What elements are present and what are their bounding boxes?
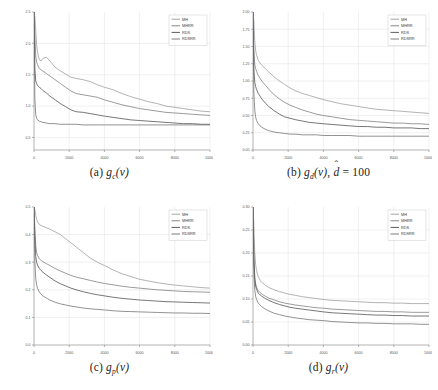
svg-text:10000: 10000 bbox=[424, 156, 432, 160]
caption-c-label: (c) bbox=[90, 361, 103, 373]
caption-c-arg: (v) bbox=[116, 361, 129, 373]
caption-d-label: (d) bbox=[309, 361, 323, 373]
chart-svg-a: 02000400060008000100000.51.01.52.02.5MHM… bbox=[8, 6, 213, 166]
svg-text:RDS: RDS bbox=[401, 31, 409, 35]
caption-a-label: (a) bbox=[90, 166, 103, 178]
svg-text:RDS: RDS bbox=[182, 31, 190, 35]
svg-text:6000: 6000 bbox=[355, 351, 363, 355]
svg-text:4000: 4000 bbox=[100, 351, 108, 355]
caption-d-arg: (v) bbox=[335, 361, 348, 373]
svg-text:MHRR: MHRR bbox=[401, 219, 413, 223]
svg-text:0.20: 0.20 bbox=[243, 251, 250, 255]
svg-text:1.5: 1.5 bbox=[26, 73, 31, 77]
caption-a: (a) gc(v) bbox=[0, 166, 219, 181]
caption-d: (d) gr(v) bbox=[219, 361, 438, 376]
svg-text:0.5: 0.5 bbox=[26, 136, 31, 140]
panel-b: 02000400060008000100000.000.250.500.751.… bbox=[219, 0, 438, 195]
svg-text:MH: MH bbox=[182, 213, 188, 217]
svg-text:1.00: 1.00 bbox=[243, 79, 250, 83]
svg-text:4000: 4000 bbox=[100, 156, 108, 160]
svg-text:0.4: 0.4 bbox=[26, 233, 31, 237]
svg-text:0: 0 bbox=[252, 156, 254, 160]
panel-d: 02000400060008000100000.000.050.100.150.… bbox=[219, 195, 438, 390]
svg-text:2.0: 2.0 bbox=[26, 42, 31, 46]
caption-b-hat-var: ˆd bbox=[333, 166, 339, 178]
svg-text:MH: MH bbox=[401, 213, 407, 217]
svg-text:0.2: 0.2 bbox=[26, 288, 31, 292]
chart-svg-b: 02000400060008000100000.000.250.500.751.… bbox=[227, 6, 432, 166]
plot-area-b: 02000400060008000100000.000.250.500.751.… bbox=[227, 6, 432, 166]
svg-text:0.3: 0.3 bbox=[26, 261, 31, 265]
svg-text:8000: 8000 bbox=[171, 156, 179, 160]
panel-a: 02000400060008000100000.51.01.52.02.5MHM… bbox=[0, 0, 219, 195]
svg-text:2000: 2000 bbox=[284, 156, 292, 160]
chart-svg-d: 02000400060008000100000.000.050.100.150.… bbox=[227, 201, 432, 361]
svg-text:8000: 8000 bbox=[171, 351, 179, 355]
svg-text:0: 0 bbox=[33, 351, 35, 355]
svg-text:1.50: 1.50 bbox=[243, 45, 250, 49]
svg-text:2.00: 2.00 bbox=[243, 10, 250, 14]
svg-text:RDSRR: RDSRR bbox=[401, 232, 415, 236]
svg-text:1.75: 1.75 bbox=[243, 28, 250, 32]
svg-text:8000: 8000 bbox=[390, 351, 398, 355]
svg-text:0: 0 bbox=[33, 156, 35, 160]
svg-text:10000: 10000 bbox=[205, 156, 213, 160]
svg-text:2000: 2000 bbox=[65, 156, 73, 160]
caption-b-arg: (v), bbox=[314, 166, 330, 178]
figure-container: 02000400060008000100000.51.01.52.02.5MHM… bbox=[0, 0, 438, 390]
svg-text:8000: 8000 bbox=[390, 156, 398, 160]
svg-text:RDS: RDS bbox=[182, 226, 190, 230]
svg-text:6000: 6000 bbox=[355, 156, 363, 160]
caption-c: (c) gp(v) bbox=[0, 361, 219, 376]
svg-text:10000: 10000 bbox=[424, 351, 432, 355]
svg-text:10000: 10000 bbox=[205, 351, 213, 355]
svg-text:0.00: 0.00 bbox=[243, 343, 250, 347]
svg-text:0.5: 0.5 bbox=[26, 205, 31, 209]
svg-text:0.75: 0.75 bbox=[243, 97, 250, 101]
svg-text:MH: MH bbox=[182, 18, 188, 22]
svg-text:0.25: 0.25 bbox=[243, 131, 250, 135]
svg-text:RDSRR: RDSRR bbox=[401, 37, 415, 41]
svg-text:RDS: RDS bbox=[401, 226, 409, 230]
svg-text:0.05: 0.05 bbox=[243, 320, 250, 324]
caption-b-label: (b) bbox=[287, 166, 301, 178]
svg-text:MHRR: MHRR bbox=[182, 24, 194, 28]
svg-text:MH: MH bbox=[401, 18, 407, 22]
caption-b: (b) gd(v), ˆd = 100 bbox=[219, 166, 438, 181]
plot-area-c: 02000400060008000100000.00.10.20.30.40.5… bbox=[8, 201, 213, 361]
caption-b-eq: = 100 bbox=[342, 166, 370, 178]
svg-text:1.0: 1.0 bbox=[26, 104, 31, 108]
svg-text:4000: 4000 bbox=[319, 156, 327, 160]
plot-area-a: 02000400060008000100000.51.01.52.02.5MHM… bbox=[8, 6, 213, 166]
svg-text:0.30: 0.30 bbox=[243, 205, 250, 209]
svg-text:2.5: 2.5 bbox=[26, 10, 31, 14]
svg-text:RDSRR: RDSRR bbox=[182, 37, 196, 41]
svg-text:RDSRR: RDSRR bbox=[182, 232, 196, 236]
hat-accent-icon: ˆ bbox=[333, 159, 339, 170]
svg-text:0.25: 0.25 bbox=[243, 228, 250, 232]
svg-text:0.1: 0.1 bbox=[26, 316, 31, 320]
svg-text:6000: 6000 bbox=[136, 351, 144, 355]
svg-text:2000: 2000 bbox=[65, 351, 73, 355]
svg-text:2000: 2000 bbox=[284, 351, 292, 355]
plot-area-d: 02000400060008000100000.000.050.100.150.… bbox=[227, 201, 432, 361]
svg-text:0.10: 0.10 bbox=[243, 297, 250, 301]
svg-text:1.25: 1.25 bbox=[243, 62, 250, 66]
svg-text:0.15: 0.15 bbox=[243, 274, 250, 278]
panel-c: 02000400060008000100000.00.10.20.30.40.5… bbox=[0, 195, 219, 390]
chart-svg-c: 02000400060008000100000.00.10.20.30.40.5… bbox=[8, 201, 213, 361]
svg-text:6000: 6000 bbox=[136, 156, 144, 160]
caption-a-arg: (v) bbox=[116, 166, 129, 178]
svg-text:0: 0 bbox=[252, 351, 254, 355]
svg-text:MHRR: MHRR bbox=[182, 219, 194, 223]
svg-text:0.50: 0.50 bbox=[243, 114, 250, 118]
svg-text:0.00: 0.00 bbox=[243, 148, 250, 152]
svg-text:4000: 4000 bbox=[319, 351, 327, 355]
svg-text:0.0: 0.0 bbox=[26, 343, 31, 347]
svg-text:MHRR: MHRR bbox=[401, 24, 413, 28]
